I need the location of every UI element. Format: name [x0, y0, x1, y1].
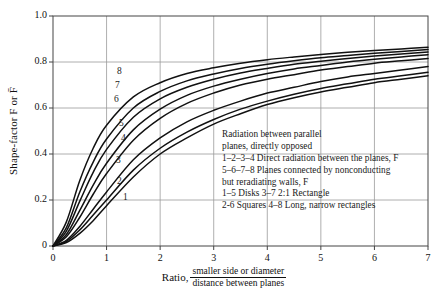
x-axis-label-fraction: smaller side or diameterdistance between…	[190, 266, 286, 288]
y-tick-label-1: 0.2	[35, 193, 48, 204]
y-tick-label-3: 0.6	[35, 101, 48, 112]
curve-label-7: 7	[115, 80, 120, 90]
x-axis-label-container: Ratio,smaller side or diameterdistance b…	[0, 266, 448, 288]
y-tick-label-2: 0.4	[35, 147, 48, 158]
y-tick-label-5: 1.0	[35, 9, 48, 20]
chart-curves	[53, 47, 428, 246]
curve-label-1: 1	[123, 192, 128, 202]
x-tick-label-5: 5	[311, 252, 331, 263]
curve-label-6: 6	[114, 94, 119, 104]
x-axis-label-numerator: smaller side or diameter	[190, 266, 286, 278]
x-axis-label-prefix: Ratio,	[162, 271, 189, 283]
x-axis-label-denominator: distance between planes	[190, 278, 286, 289]
x-tick-label-1: 1	[97, 252, 117, 263]
x-tick-label-3: 3	[204, 252, 224, 263]
curve-label-4: 4	[121, 133, 126, 143]
curve-label-3: 3	[116, 155, 121, 165]
curve-label-8: 8	[117, 66, 122, 76]
y-tick-label-0: 0	[42, 239, 47, 250]
x-tick-label-2: 2	[150, 252, 170, 263]
x-tick-label-7: 7	[418, 252, 438, 263]
curve-label-2: 2	[117, 176, 122, 186]
chart-plot-area	[0, 0, 448, 295]
y-tick-label-4: 0.8	[35, 55, 48, 66]
shape-factor-chart-figure: 00.20.40.60.81.0 01234567 87654321 Shape…	[0, 0, 448, 295]
curve-label-5: 5	[119, 118, 124, 128]
x-tick-label-6: 6	[364, 252, 384, 263]
x-tick-label-4: 4	[257, 252, 277, 263]
x-tick-label-0: 0	[43, 252, 63, 263]
